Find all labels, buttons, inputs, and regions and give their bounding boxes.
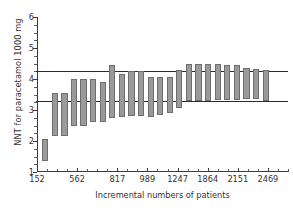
x-tick-major xyxy=(208,168,209,172)
y-tick-minor xyxy=(34,25,37,26)
y-tick-minor xyxy=(34,95,37,96)
x-tick-major xyxy=(77,168,78,172)
x-tick-minor xyxy=(157,169,158,172)
x-tick-major xyxy=(238,168,239,172)
x-tick-label: 2151 xyxy=(227,174,248,184)
x-tick-label: 2469 xyxy=(257,174,278,184)
confidence-interval-bar xyxy=(61,93,67,136)
x-tick-major xyxy=(268,168,269,172)
x-tick-minor xyxy=(107,169,108,172)
confidence-interval-bar xyxy=(243,68,249,99)
y-tick-minor xyxy=(34,56,37,57)
x-tick-minor xyxy=(47,169,48,172)
x-tick-minor xyxy=(188,169,189,172)
confidence-interval-bar xyxy=(42,139,48,161)
confidence-interval-bar xyxy=(195,64,201,101)
x-tick-label: 1247 xyxy=(167,174,188,184)
confidence-interval-bar xyxy=(186,64,192,101)
x-tick-label: 562 xyxy=(69,174,85,184)
x-tick-minor xyxy=(168,169,169,172)
x-tick-major xyxy=(178,168,179,172)
x-tick-major xyxy=(117,168,118,172)
confidence-interval-bar xyxy=(176,70,182,109)
confidence-interval-bar xyxy=(157,77,163,115)
x-tick-minor xyxy=(248,169,249,172)
confidence-interval-bar xyxy=(253,69,259,99)
y-tick-minor xyxy=(34,118,37,119)
x-tick-minor xyxy=(127,169,128,172)
x-tick-minor xyxy=(288,169,289,172)
confidence-interval-bar xyxy=(119,74,125,116)
confidence-interval-bar xyxy=(100,82,106,122)
y-tick-label: 4 xyxy=(29,74,34,84)
y-tick-label: 6 xyxy=(29,12,34,22)
y-tick-minor xyxy=(34,40,37,41)
upper-confidence-limit xyxy=(36,71,288,72)
x-tick-label: 817 xyxy=(109,174,125,184)
y-tick-minor xyxy=(34,87,37,88)
x-axis-line xyxy=(37,171,288,172)
confidence-interval-bar xyxy=(52,93,58,136)
x-tick-minor xyxy=(218,169,219,172)
confidence-interval-bar xyxy=(80,79,86,126)
confidence-interval-bar xyxy=(234,65,240,100)
chart-container: NNT for paracetamol 1000 mg 123456 15256… xyxy=(0,0,293,209)
y-tick-label: 5 xyxy=(29,43,34,53)
confidence-interval-bar xyxy=(148,77,154,116)
y-tick-minor xyxy=(34,33,37,34)
confidence-interval-bar xyxy=(128,71,134,116)
x-tick-label: 152 xyxy=(29,174,45,184)
y-tick-minor xyxy=(34,157,37,158)
y-tick-label: 3 xyxy=(29,105,34,115)
x-tick-major xyxy=(37,168,38,172)
y-axis-title: NNT for paracetamol 1000 mg xyxy=(13,7,23,157)
x-tick-major xyxy=(147,168,148,172)
y-tick-minor xyxy=(34,126,37,127)
y-tick-minor xyxy=(34,64,37,65)
confidence-interval-bar xyxy=(71,79,77,126)
confidence-interval-bar xyxy=(205,64,211,101)
confidence-interval-bar xyxy=(90,79,96,122)
y-axis-line xyxy=(37,17,38,172)
y-tick-minor xyxy=(34,164,37,165)
y-tick-minor xyxy=(34,102,37,103)
x-tick-minor xyxy=(278,169,279,172)
x-tick-minor xyxy=(87,169,88,172)
confidence-interval-bar xyxy=(263,70,269,101)
y-tick-minor xyxy=(34,133,37,134)
confidence-interval-bar xyxy=(109,65,115,118)
x-tick-minor xyxy=(67,169,68,172)
confidence-interval-bar xyxy=(215,64,221,100)
x-tick-label: 1864 xyxy=(197,174,218,184)
x-tick-label: 989 xyxy=(140,174,156,184)
y-tick-label: 2 xyxy=(29,136,34,146)
x-tick-minor xyxy=(198,169,199,172)
x-tick-minor xyxy=(57,169,58,172)
plot-area: 123456 1525628179891247186421512469 xyxy=(37,17,288,172)
x-tick-minor xyxy=(137,169,138,172)
x-tick-minor xyxy=(97,169,98,172)
confidence-interval-bar xyxy=(224,65,230,100)
x-tick-minor xyxy=(258,169,259,172)
confidence-interval-bar xyxy=(138,71,144,116)
y-tick-minor xyxy=(34,149,37,150)
x-axis-title: Incremental numbers of patients xyxy=(37,190,288,200)
x-tick-minor xyxy=(228,169,229,172)
confidence-interval-bar xyxy=(167,77,173,113)
